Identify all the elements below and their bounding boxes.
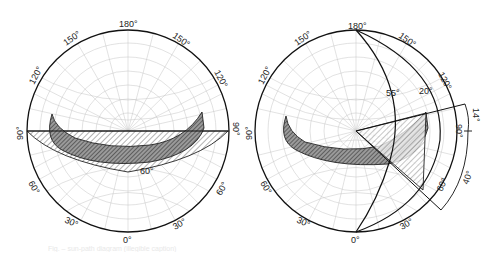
left-label-0: 0° [123,235,132,245]
right-label-180: 180° [348,21,367,31]
right-label-90-left: 90° [244,126,254,140]
left-label-60-left: 60° [26,179,42,196]
right-label-dim-14: 14° [471,108,481,122]
left-label-180: 180° [119,19,138,29]
left-label-150-right: 150° [171,30,192,49]
right-label-120-left: 120° [256,64,274,85]
right-label-0: 0° [351,235,360,245]
right-label-90-right: 90° [454,124,464,138]
left-label-30-right: 30° [171,216,188,232]
right-label-30-left: 30° [295,215,312,230]
right-label-30-right: 30° [398,216,415,232]
left-label-60-right: 60° [214,180,230,197]
left-sun-path-diagram: 180° 150° 150° 120° 120° 90° 90° 60° 60°… [15,19,241,245]
right-label-interior-55: 55° [386,88,400,98]
left-label-interior-60: 60° [140,166,154,176]
right-dim-arc-14 [465,104,469,131]
left-label-90-left: 90° [15,126,25,140]
left-label-120-left: 120° [27,64,45,85]
right-label-150-right: 150° [397,30,418,49]
left-label-150-left: 150° [61,29,82,48]
right-sun-path-diagram: 180° 150° 150° 120° 120° 90° 90° 60° 60°… [244,21,481,245]
left-label-30-left: 30° [63,215,80,230]
right-label-60-right: 60° [435,176,450,193]
left-label-90-right: 90° [231,122,241,136]
right-label-60-left: 60° [258,179,274,196]
figure-caption: Fig. – sun-path diagram (illegible capti… [48,246,228,252]
right-label-interior-20: 20° [419,86,433,96]
figure-canvas: 180° 150° 150° 120° 120° 90° 90° 60° 60°… [0,0,485,258]
